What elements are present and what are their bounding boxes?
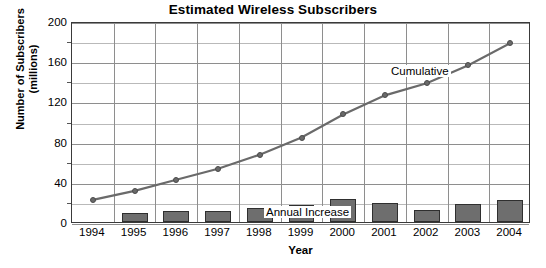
chart-title: Estimated Wireless Subscribers	[0, 2, 546, 17]
x-axis-title: Year	[71, 244, 530, 256]
y-axis-tick-label: 160	[34, 56, 67, 68]
cumulative-line-path	[72, 23, 531, 224]
x-axis-tick-label: 1995	[121, 226, 147, 238]
data-point-marker	[132, 188, 138, 194]
x-axis-tick-label: 2000	[329, 226, 355, 238]
y-axis-tick-label: 120	[34, 96, 67, 108]
y-axis-title-line1: Number of Subscribers	[14, 8, 26, 130]
data-point-marker	[507, 40, 513, 46]
x-axis-tick-labels: 1994199519961997199819992000200120022003…	[71, 226, 530, 242]
data-point-marker	[299, 135, 305, 141]
x-axis-tick-label: 1997	[204, 226, 230, 238]
x-axis-tick-label: 1999	[288, 226, 314, 238]
series-label-cumulative: Cumulative	[389, 65, 451, 77]
gridline-major	[72, 224, 529, 225]
data-point-marker	[90, 197, 96, 203]
line-series-cumulative	[72, 23, 529, 222]
series-label-annual-increase: Annual Increase	[264, 206, 351, 218]
x-axis-tick-label: 2003	[455, 226, 481, 238]
data-point-marker	[257, 152, 263, 158]
x-axis-tick-label: 2002	[413, 226, 439, 238]
x-axis-tick-label: 1994	[79, 226, 105, 238]
chart-container: Estimated Wireless Subscribers Number of…	[0, 0, 546, 268]
y-axis-tick-labels: 04080120160200	[34, 22, 67, 223]
data-point-marker	[340, 111, 346, 117]
data-point-marker	[382, 92, 388, 98]
data-point-marker	[173, 177, 179, 183]
plot-area: Cumulative Annual Increase	[71, 22, 530, 223]
x-axis-tick-label: 1998	[246, 226, 272, 238]
y-axis-tick-label: 80	[34, 137, 67, 149]
data-point-marker	[215, 166, 221, 172]
data-point-marker	[465, 62, 471, 68]
data-point-marker	[424, 80, 430, 86]
y-axis-tick-label: 40	[34, 177, 67, 189]
x-axis-tick-label: 1996	[163, 226, 189, 238]
y-axis-tick-label: 0	[34, 217, 67, 229]
x-axis-tick-label: 2004	[496, 226, 522, 238]
x-axis-tick-label: 2001	[371, 226, 397, 238]
y-axis-tick-label: 200	[34, 16, 67, 28]
